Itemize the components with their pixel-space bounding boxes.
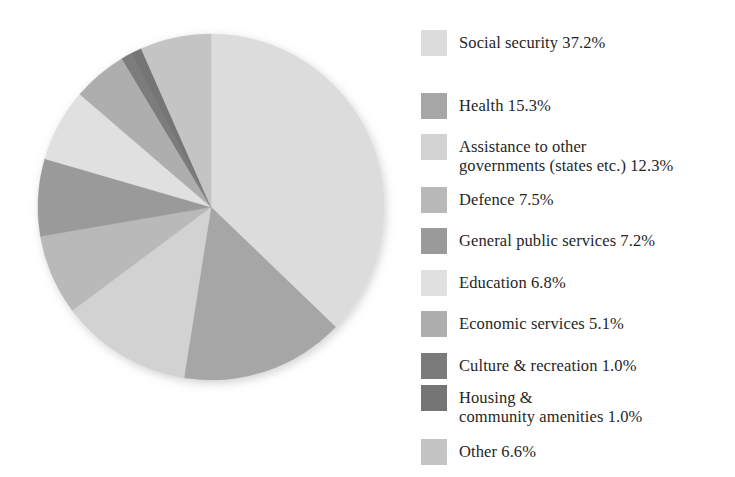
legend-item-label: Social security 37.2% — [459, 30, 605, 52]
legend-color-swatch — [421, 228, 447, 254]
legend-item[interactable]: Culture & recreation 1.0% — [421, 353, 637, 379]
pie-chart-svg — [0, 0, 410, 477]
legend-item-label: Assistance to other governments (states … — [459, 134, 673, 175]
pie-slices-group — [38, 34, 384, 380]
legend-color-swatch — [421, 93, 447, 119]
legend-item-label: General public services 7.2% — [459, 228, 655, 250]
legend-color-swatch — [421, 187, 447, 213]
legend-item-label: Education 6.8% — [459, 270, 566, 292]
legend-color-swatch — [421, 385, 447, 411]
legend-item[interactable]: Social security 37.2% — [421, 30, 605, 56]
legend-item-label: Other 6.6% — [459, 439, 536, 461]
legend-color-swatch — [421, 30, 447, 56]
legend-item[interactable]: Assistance to other governments (states … — [421, 134, 673, 175]
pie-chart-area — [0, 0, 410, 477]
legend-item-label: Economic services 5.1% — [459, 311, 624, 333]
legend-color-swatch — [421, 134, 447, 160]
pie-chart-figure: Social security 37.2%Health 15.3%Assista… — [0, 0, 735, 477]
legend-color-swatch — [421, 353, 447, 379]
legend-item[interactable]: Health 15.3% — [421, 93, 551, 119]
legend-color-swatch — [421, 311, 447, 337]
legend-item-label: Health 15.3% — [459, 93, 551, 115]
legend-item-label: Housing & community amenities 1.0% — [459, 385, 642, 426]
legend-item[interactable]: General public services 7.2% — [421, 228, 655, 254]
legend-item[interactable]: Housing & community amenities 1.0% — [421, 385, 642, 426]
legend-item[interactable]: Education 6.8% — [421, 270, 566, 296]
legend-color-swatch — [421, 270, 447, 296]
legend-item[interactable]: Economic services 5.1% — [421, 311, 624, 337]
legend-item-label: Culture & recreation 1.0% — [459, 353, 637, 375]
legend-item-label: Defence 7.5% — [459, 187, 554, 209]
legend-color-swatch — [421, 439, 447, 465]
legend-item[interactable]: Defence 7.5% — [421, 187, 554, 213]
legend-item[interactable]: Other 6.6% — [421, 439, 536, 465]
